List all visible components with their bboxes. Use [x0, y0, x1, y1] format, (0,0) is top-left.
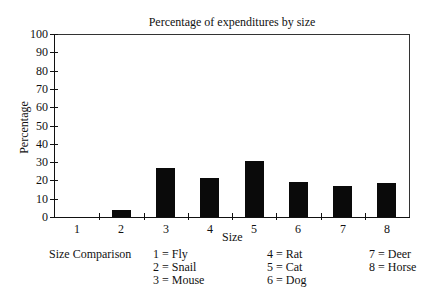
y-tick	[50, 34, 58, 35]
x-tick	[144, 213, 145, 220]
bar-size-7	[333, 186, 352, 217]
bar-size-4	[200, 178, 219, 217]
y-tick	[50, 217, 58, 218]
y-tick	[50, 180, 58, 181]
legend-item-horse: 8 = Horse	[369, 260, 416, 275]
x-tick-label: 3	[156, 222, 176, 237]
x-tick-label: 1	[67, 222, 87, 237]
y-tick-label: 90	[10, 46, 48, 58]
bar-size-6	[289, 182, 308, 217]
x-tick	[365, 213, 366, 220]
x-tick	[321, 213, 322, 220]
x-tick-label: 2	[111, 222, 131, 237]
y-tick	[50, 144, 58, 145]
y-tick-label: 30	[10, 156, 48, 168]
x-tick-label: 8	[377, 222, 397, 237]
y-tick	[50, 71, 58, 72]
y-tick-label: 60	[10, 101, 48, 113]
x-tick-label: 4	[200, 222, 220, 237]
x-tick-label: 5	[244, 222, 264, 237]
legend-item-dog: 6 = Dog	[267, 273, 306, 288]
x-tick	[99, 213, 100, 220]
bar-size-3	[156, 168, 175, 217]
y-tick	[50, 126, 58, 127]
y-tick-label: 10	[10, 193, 48, 205]
y-tick	[50, 199, 58, 200]
y-tick-label: 70	[10, 83, 48, 95]
legend-title: Size Comparison	[49, 247, 131, 262]
x-tick-label: 7	[333, 222, 353, 237]
bar-size-8	[377, 183, 396, 217]
legend-item-mouse: 3 = Mouse	[153, 273, 204, 288]
y-tick	[50, 107, 58, 108]
bar-size-5	[245, 161, 264, 217]
bar-size-2	[112, 210, 131, 217]
y-tick	[50, 89, 58, 90]
y-tick-label: 20	[10, 174, 48, 186]
x-axis-title: Size	[222, 230, 243, 245]
y-tick	[50, 52, 58, 53]
y-tick-label: 50	[10, 120, 48, 132]
y-tick-label: 40	[10, 138, 48, 150]
x-tick	[276, 213, 277, 220]
x-tick	[188, 213, 189, 220]
y-tick	[50, 162, 58, 163]
x-tick-label: 6	[288, 222, 308, 237]
y-tick-label: 0	[10, 211, 48, 223]
y-tick-label: 80	[10, 65, 48, 77]
plot-area	[55, 34, 410, 218]
chart-title: Percentage of expenditures by size	[55, 15, 409, 30]
y-tick-label: 100	[10, 28, 48, 40]
x-tick	[232, 213, 233, 220]
